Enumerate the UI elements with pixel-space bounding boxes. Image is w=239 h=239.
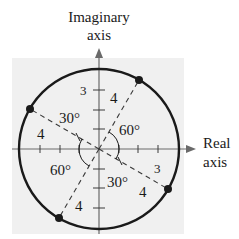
real-axis-label-line2: axis xyxy=(203,154,227,170)
imag-tick-label-3: 3 xyxy=(80,83,87,98)
radius-label-left: 4 xyxy=(37,126,45,142)
real-axis-arrow-icon xyxy=(186,145,196,153)
angle-label-lower-left: 60° xyxy=(50,162,71,178)
imaginary-axis-label-line1: Imaginary xyxy=(68,9,130,25)
real-axis-label-line1: Real xyxy=(203,135,231,151)
complex-plane-diagram: Imaginary axis Real axis 3 3 4 4 4 4 30°… xyxy=(0,0,239,239)
angle-label-upper-left: 30° xyxy=(59,110,80,126)
imaginary-axis-arrow-icon xyxy=(95,48,103,58)
radius-label-right: 4 xyxy=(139,184,147,200)
imaginary-axis-label-line2: axis xyxy=(87,27,111,43)
radius-label-upper: 4 xyxy=(110,90,118,106)
real-tick-label-3: 3 xyxy=(154,161,161,176)
angle-label-lower-right: 30° xyxy=(107,174,128,190)
angle-label-upper-right: 60° xyxy=(119,122,140,138)
radius-label-lower: 4 xyxy=(75,198,83,214)
